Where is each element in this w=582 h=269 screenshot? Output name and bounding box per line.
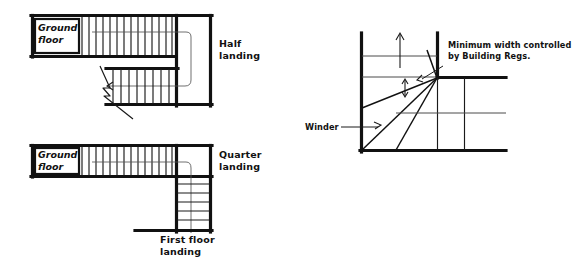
ground-floor-label-line1: Ground <box>38 22 78 33</box>
min-width-note-line1: Minimum width controlled <box>448 40 572 50</box>
quarter-landing-label-line2: landing <box>219 161 260 172</box>
stair-diagrams-figure: Ground floor <box>0 0 582 269</box>
quarter-landing-label-line1: Quarter <box>219 149 262 160</box>
min-width-note-line2: by Building Regs. <box>448 51 530 61</box>
ground-floor-label-line2: floor <box>38 34 65 45</box>
winder-label: Winder <box>305 122 340 132</box>
half-landing-label-line2: landing <box>219 50 260 61</box>
ground-floor-label-line1: Ground <box>38 149 78 160</box>
first-floor-landing-label-line2: landing <box>160 246 201 257</box>
half-landing-label-line1: Half <box>219 38 242 49</box>
first-floor-landing-label-line1: First floor <box>160 234 215 245</box>
ground-floor-label-line2: floor <box>38 161 65 172</box>
